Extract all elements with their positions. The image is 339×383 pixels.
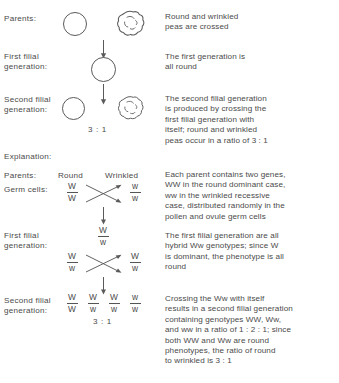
label-second-filial-bottom: Second filial generation: [4, 296, 51, 316]
round-pea-icon-f2 [62, 97, 85, 120]
genotype-fraction-f2-3: W w [108, 293, 120, 314]
description-second-filial-top: The second filial generation is produced… [165, 94, 339, 146]
genotype-fraction-germ-left: W W [66, 182, 78, 203]
header-wrinkled: Wrinkled [105, 171, 138, 181]
down-arrow-icon-f1-to-f2-bottom [99, 277, 108, 295]
genotype-denominator: w [129, 193, 141, 203]
genotype-fraction-f2-2: W w [87, 293, 99, 314]
genotype-denominator: W [66, 304, 78, 314]
label-explanation: Explanation: [4, 152, 52, 162]
genotype-numerator: W [66, 182, 78, 192]
round-pea-icon-f1 [91, 57, 116, 82]
genotype-denominator: W [66, 193, 78, 203]
label-germ-cells: Germ cells: [4, 185, 48, 195]
genotype-fraction-f2-1: W W [66, 293, 78, 314]
label-first-filial-top: First filial generation: [4, 52, 47, 72]
ratio-f2-top: 3 : 1 [88, 125, 107, 134]
genotype-denominator: w [97, 237, 109, 247]
genotype-numerator: w [129, 182, 141, 192]
genotype-fraction-germ-right: w w [129, 182, 141, 203]
genotype-denominator: w [66, 263, 78, 273]
genotype-denominator: w [87, 304, 99, 314]
wrinkled-pea-icon-f2 [117, 95, 145, 122]
genotype-numerator: W [66, 252, 78, 262]
genotype-numerator: W [66, 293, 78, 303]
header-round: Round [58, 171, 83, 181]
label-parents-top: Parents: [4, 14, 36, 24]
ratio-f2-bottom: 3 : 1 [93, 317, 112, 326]
genotype-fraction-f1cross-right: W w [129, 252, 141, 273]
genotype-denominator: w [129, 263, 141, 273]
label-first-filial-bottom: First filial generation: [4, 231, 47, 251]
down-arrow-icon-germ-to-f1 [99, 207, 108, 225]
label-second-filial-top: Second filial generation: [4, 95, 51, 115]
genotype-numerator: W [97, 226, 109, 236]
genotype-numerator: W [108, 293, 120, 303]
cross-arrows-icon-germ-cells [85, 183, 125, 205]
description-second-filial-bottom: Crossing the Ww with itself results in a… [165, 294, 339, 367]
genotype-fraction-f2-4: w w [129, 293, 141, 314]
round-pea-icon [63, 12, 87, 36]
genotype-fraction-f1cross-left: W w [66, 252, 78, 273]
genotype-denominator: w [108, 304, 120, 314]
genotype-numerator: w [129, 293, 141, 303]
genotype-numerator: W [129, 252, 141, 262]
genotype-numerator: W [87, 293, 99, 303]
description-first-filial-top: The first generation is all round [165, 52, 337, 73]
genotype-denominator: w [129, 304, 141, 314]
down-arrow-icon-f1-to-f2 [99, 84, 108, 105]
label-parents-bottom: Parents: [4, 171, 36, 181]
description-parents-bottom: Each parent contains two genes, WW in th… [165, 170, 339, 222]
description-first-filial-bottom: The first filial generation are all hybr… [165, 231, 339, 273]
wrinkled-pea-icon [116, 10, 146, 38]
genotype-fraction-f1: W w [97, 226, 109, 247]
cross-arrows-icon-f1-self-cross [85, 253, 125, 275]
mendel-pea-genetics-figure: Parents: First filial generation: Second… [0, 0, 339, 383]
description-parents-top: Round and wrinkled peas are crossed [165, 12, 337, 33]
